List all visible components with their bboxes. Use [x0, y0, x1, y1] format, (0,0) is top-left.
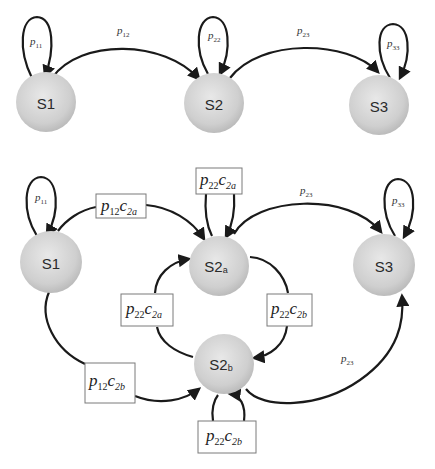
edge-top-s2-self-loop	[199, 17, 228, 74]
edge-bottom-s2a-self-loop-arrow	[226, 194, 234, 237]
svg-text:S1: S1	[37, 95, 55, 112]
edge-bottom-s1-to-s2b	[46, 292, 85, 364]
edge-top-s1-to-s2	[52, 49, 199, 79]
node-bottom-s3: S3	[353, 234, 415, 296]
edge-bottom-s2b-to-s2a	[157, 327, 193, 357]
box-p22-c2b-bottom: p22c2b	[198, 421, 256, 453]
label-top-p33: p33	[386, 37, 400, 52]
edge-bottom-s2b-self-loop	[212, 395, 218, 421]
label-bottom-p23-lower: p23	[340, 352, 354, 367]
edge-bottom-s2a-to-s2b	[250, 257, 288, 293]
node-bottom-s2a: S2a	[189, 236, 249, 296]
node-top-s3: S3	[349, 75, 409, 135]
svg-text:S1: S1	[42, 255, 60, 272]
label-bottom-p23-upper: p23	[299, 184, 313, 199]
edge-bottom-s1-to-s2b-arrow	[135, 389, 199, 401]
markov-chain-diagram: p11 p12 p22 p23 p33 S1 S2 S3	[0, 0, 435, 469]
box-p22-c2a-left: p22c2a	[121, 294, 173, 326]
edge-bottom-s1-to-s2a	[58, 207, 96, 231]
label-bottom-p11: p11	[34, 191, 48, 206]
box-p22-c2a-top: p22c2a	[196, 168, 242, 194]
node-bottom-s2b: S2b	[194, 334, 254, 394]
label-bottom-p33: p33	[391, 194, 405, 209]
edge-bottom-s1-to-s2a-arrow	[146, 205, 204, 239]
edge-bottom-s1-self-loop	[27, 177, 56, 236]
box-p12-c2a: p12c2a	[96, 194, 146, 218]
node-top-s1: S1	[16, 72, 76, 132]
label-top-p12: p12	[116, 24, 130, 39]
label-top-p11: p11	[29, 35, 43, 50]
bottom-chain: p11 p23 p33 p23 p12c2a p22c2a p22c2a	[20, 168, 415, 453]
edge-top-s2-to-s3	[230, 48, 378, 78]
box-p22-c2b-right: p22c2b	[267, 294, 312, 326]
edge-bottom-s2b-to-s2a-arrow	[155, 259, 189, 293]
svg-text:S3: S3	[375, 258, 393, 275]
label-top-p23: p23	[296, 24, 310, 39]
edge-bottom-s2a-to-s2b-arrow	[254, 326, 287, 358]
svg-text:S2: S2	[205, 96, 223, 113]
edge-bottom-s2a-to-s3	[234, 204, 381, 234]
label-top-p22: p22	[207, 29, 221, 44]
top-chain: p11 p12 p22 p23 p33 S1 S2 S3	[16, 17, 409, 135]
svg-text:S3: S3	[370, 98, 388, 115]
node-bottom-s1: S1	[20, 231, 82, 293]
edge-bottom-s2a-self-loop	[206, 194, 212, 236]
box-p12-c2b: p12c2b	[85, 363, 135, 403]
node-top-s2: S2	[184, 73, 244, 133]
edge-bottom-s2b-self-loop-arrow	[230, 394, 244, 421]
